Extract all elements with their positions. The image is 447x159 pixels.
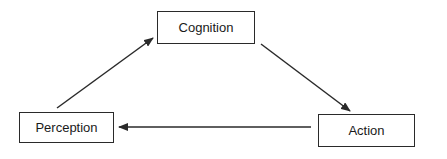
edge-cognition-to-action [261, 44, 350, 111]
node-perception-label: Perception [35, 120, 97, 135]
node-action: Action [318, 114, 415, 147]
node-perception: Perception [19, 112, 114, 143]
edge-perception-to-cognition [57, 38, 153, 108]
node-action-label: Action [348, 123, 384, 138]
node-cognition-label: Cognition [179, 20, 234, 35]
node-cognition: Cognition [157, 11, 255, 44]
cognition-cycle-diagram: Cognition Action Perception [0, 0, 447, 159]
